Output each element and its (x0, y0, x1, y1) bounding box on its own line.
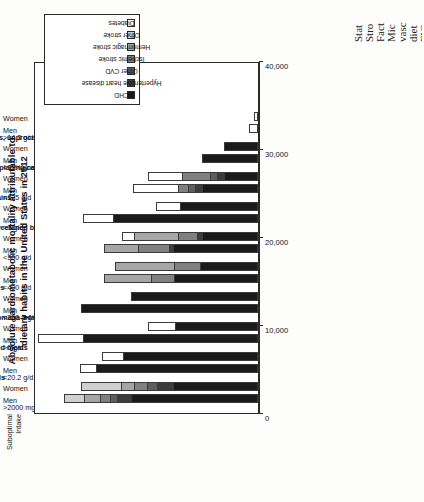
category-name-label: High processed meats (0, 343, 28, 352)
bar[interactable] (64, 394, 258, 403)
bar[interactable] (81, 304, 258, 313)
bar-segment (202, 154, 258, 163)
bar-segment (104, 274, 151, 283)
legend-item[interactable]: Other CVD (50, 67, 135, 76)
axis-tick-label: 10,000 (265, 326, 288, 335)
bar-group (35, 382, 258, 403)
category-name-label: Low whole grains (0, 193, 11, 202)
bar[interactable] (148, 322, 258, 331)
bar-sex-label: Women (3, 145, 28, 154)
bar-group (35, 232, 258, 253)
axis-tick (259, 61, 263, 62)
bar-segment (157, 382, 173, 391)
axis-tick-label: 20,000 (265, 238, 288, 247)
axis-tick-label: 40,000 (265, 62, 288, 71)
bar-sex-label: Women (3, 385, 28, 394)
bar[interactable] (122, 232, 258, 241)
bar[interactable] (81, 382, 258, 391)
bar[interactable] (148, 172, 258, 181)
bar-group (35, 142, 258, 163)
bar-segment (174, 262, 200, 271)
bar-segment (175, 322, 258, 331)
bar-segment (182, 172, 211, 181)
bar[interactable] (38, 334, 258, 343)
bar-group (35, 322, 258, 343)
bar-segment (80, 364, 96, 373)
bar-group (35, 262, 258, 283)
bar-segment (210, 172, 217, 181)
bar-segment (117, 394, 131, 403)
bar-sex-label: Women (3, 115, 28, 124)
bar-segment (224, 142, 258, 151)
value-axis: 010,00020,00030,00040,000 (259, 62, 305, 414)
axis-line (259, 62, 260, 414)
bar[interactable] (133, 184, 258, 193)
bar-segment (104, 244, 138, 253)
bar-segment (174, 274, 258, 283)
legend-label: Ischemic stroke (99, 56, 145, 63)
legend-label-box: Other CVD (59, 67, 125, 76)
bar-segment (200, 262, 258, 271)
bar-segment (134, 232, 178, 241)
bar[interactable] (156, 202, 258, 211)
bar[interactable] (104, 274, 258, 283)
legend-item[interactable]: CHD (50, 91, 135, 100)
bar-segment (156, 202, 180, 211)
bar-segment (110, 394, 117, 403)
bar-segment (64, 394, 84, 403)
bar-segment (148, 172, 182, 181)
bar[interactable] (202, 154, 258, 163)
category-threshold-label: <300 g/d (3, 253, 31, 262)
bar-sex-label: Women (3, 175, 28, 184)
bar[interactable] (102, 352, 258, 361)
bar-sex-label: Women (3, 265, 28, 274)
bar-segment (254, 112, 259, 121)
bar-segment (121, 382, 133, 391)
legend-item[interactable]: Hypertensive heart disease (50, 79, 135, 88)
legend-label: Hemorrhagic stroke (93, 44, 151, 51)
bar-group (35, 352, 258, 373)
legend-item[interactable]: Ischemic stroke (50, 55, 135, 64)
bar-sex-label: Women (3, 355, 28, 364)
legend-item[interactable]: Diabetes (50, 19, 135, 28)
bar-segment (38, 334, 83, 343)
legend-label-box: Hypertensive heart disease (59, 79, 125, 88)
axis-tick-label: 30,000 (265, 150, 288, 159)
plot-area (34, 62, 259, 414)
category-axis-labels: MenWomen>2000 mg/dHigh sodiumMenWomen<20… (0, 62, 34, 414)
suboptimal-header-line-2: Intake (15, 414, 24, 450)
bar[interactable] (104, 244, 258, 253)
suboptimal-intake-header: Suboptimal Intake (6, 414, 23, 450)
bar-sex-label: Women (3, 235, 28, 244)
bar[interactable] (83, 214, 259, 223)
legend-label: Diabetes (108, 20, 134, 27)
bar-segment (115, 262, 175, 271)
axis-tick (259, 325, 263, 326)
bar-segment (113, 214, 258, 223)
bar-segment (83, 334, 258, 343)
bar-segment (138, 244, 169, 253)
bar[interactable] (131, 292, 258, 301)
legend-label: CHD (114, 92, 128, 99)
bar-segment (102, 352, 123, 361)
bar[interactable] (249, 124, 258, 133)
bar[interactable] (80, 364, 258, 373)
bar[interactable] (224, 142, 258, 151)
category-name-label: Low nuts/seeds (0, 373, 5, 382)
bar-segment (96, 364, 258, 373)
legend-item[interactable]: Hemorrhagic stroke (50, 43, 135, 52)
bar-segment (195, 184, 202, 193)
bar-segment (122, 232, 133, 241)
bar[interactable] (115, 262, 258, 271)
bar-segment (134, 382, 147, 391)
bar-group (35, 172, 258, 193)
legend-item[interactable]: Other stroke (50, 31, 135, 40)
bar-segment (131, 394, 258, 403)
bar-group (35, 112, 258, 133)
legend-label-box: Diabetes (59, 19, 125, 28)
bar-container (35, 63, 258, 413)
bar-segment (123, 352, 258, 361)
bar-group (35, 292, 258, 313)
bar-segment (83, 214, 114, 223)
bar[interactable] (254, 112, 259, 121)
